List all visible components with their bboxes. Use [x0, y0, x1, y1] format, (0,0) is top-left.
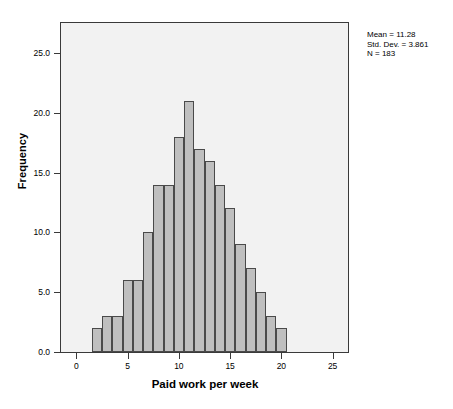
statistics-annotation: Mean = 11.28 Std. Dev. = 3.861 N = 183 [367, 30, 428, 59]
x-axis-tick-label: 15 [215, 361, 245, 371]
y-axis-tick [54, 352, 61, 353]
y-axis-tick-label: 20.0 [10, 108, 50, 118]
x-axis-tick-label: 20 [266, 361, 296, 371]
stat-n: N = 183 [367, 49, 428, 59]
histogram-figure: Frequency Paid work per week Mean = 11.2… [0, 0, 453, 409]
histogram-bar [164, 185, 174, 352]
histogram-bar [235, 244, 245, 352]
histogram-bar [133, 280, 143, 352]
y-axis-tick [54, 53, 61, 54]
y-axis-tick-label: 10.0 [10, 227, 50, 237]
x-axis-tick-label: 10 [164, 361, 194, 371]
histogram-bar [102, 316, 112, 352]
y-axis-label: Frequency [16, 101, 28, 221]
histogram-bar [215, 185, 225, 352]
histogram-bar [225, 208, 235, 352]
plot-area [61, 23, 348, 352]
histogram-bar [153, 185, 163, 352]
histogram-bar [276, 328, 286, 352]
y-axis-tick-label: 15.0 [10, 168, 50, 178]
histogram-bar [266, 316, 276, 352]
x-axis-tick [76, 353, 77, 359]
histogram-bar [205, 161, 215, 352]
histogram-bar [92, 328, 102, 352]
histogram-bar [246, 268, 256, 352]
x-axis-label: Paid work per week [60, 378, 350, 390]
y-axis-tick [54, 232, 61, 233]
histogram-bar [194, 149, 204, 352]
x-axis-tick [230, 353, 231, 359]
histogram-bar [123, 280, 133, 352]
y-axis-tick [54, 113, 61, 114]
x-axis-tick-label: 0 [61, 361, 91, 371]
y-axis-tick-label: 0.0 [10, 347, 50, 357]
y-axis-tick [54, 292, 61, 293]
histogram-bar [174, 137, 184, 352]
histogram-bar [143, 232, 153, 352]
histogram-bar [112, 316, 122, 352]
x-axis-tick [179, 353, 180, 359]
x-axis-tick [333, 353, 334, 359]
histogram-bar [184, 101, 194, 352]
x-axis-tick-label: 5 [113, 361, 143, 371]
stat-std-dev: Std. Dev. = 3.861 [367, 40, 428, 50]
x-axis-tick [281, 353, 282, 359]
stat-mean: Mean = 11.28 [367, 30, 428, 40]
y-axis-tick [54, 173, 61, 174]
histogram-bar [256, 292, 266, 352]
y-axis-tick-label: 25.0 [10, 48, 50, 58]
y-axis-tick-label: 5.0 [10, 287, 50, 297]
x-axis-tick-label: 25 [318, 361, 348, 371]
x-axis-tick [128, 353, 129, 359]
